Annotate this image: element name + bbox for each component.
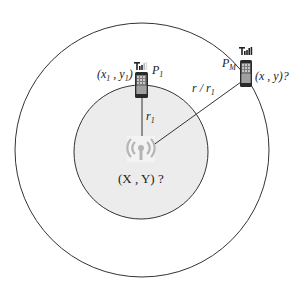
edge-label-r-over-r1: r / r1 bbox=[192, 82, 215, 97]
wifi-antenna-icon bbox=[127, 136, 155, 162]
access-point-label: (X , Y) ? bbox=[118, 172, 164, 185]
edge-label-r1: r1 bbox=[146, 110, 155, 125]
smartphone-icon bbox=[240, 60, 252, 87]
pm-coordinate-label: (x , y)? bbox=[255, 70, 289, 82]
p1-coordinate-label: (x1 , y1) bbox=[97, 68, 133, 83]
device-pm bbox=[239, 47, 252, 87]
smartphone-icon bbox=[135, 72, 148, 98]
diagram-canvas bbox=[0, 0, 303, 283]
signal-bars-icon bbox=[239, 47, 252, 55]
p1-name-label: P1 bbox=[152, 64, 163, 79]
localization-diagram: (x1 , y1) P1 PM (x , y)? r1 r / r1 (X , … bbox=[0, 0, 303, 283]
pm-name-label: PM bbox=[222, 57, 236, 72]
